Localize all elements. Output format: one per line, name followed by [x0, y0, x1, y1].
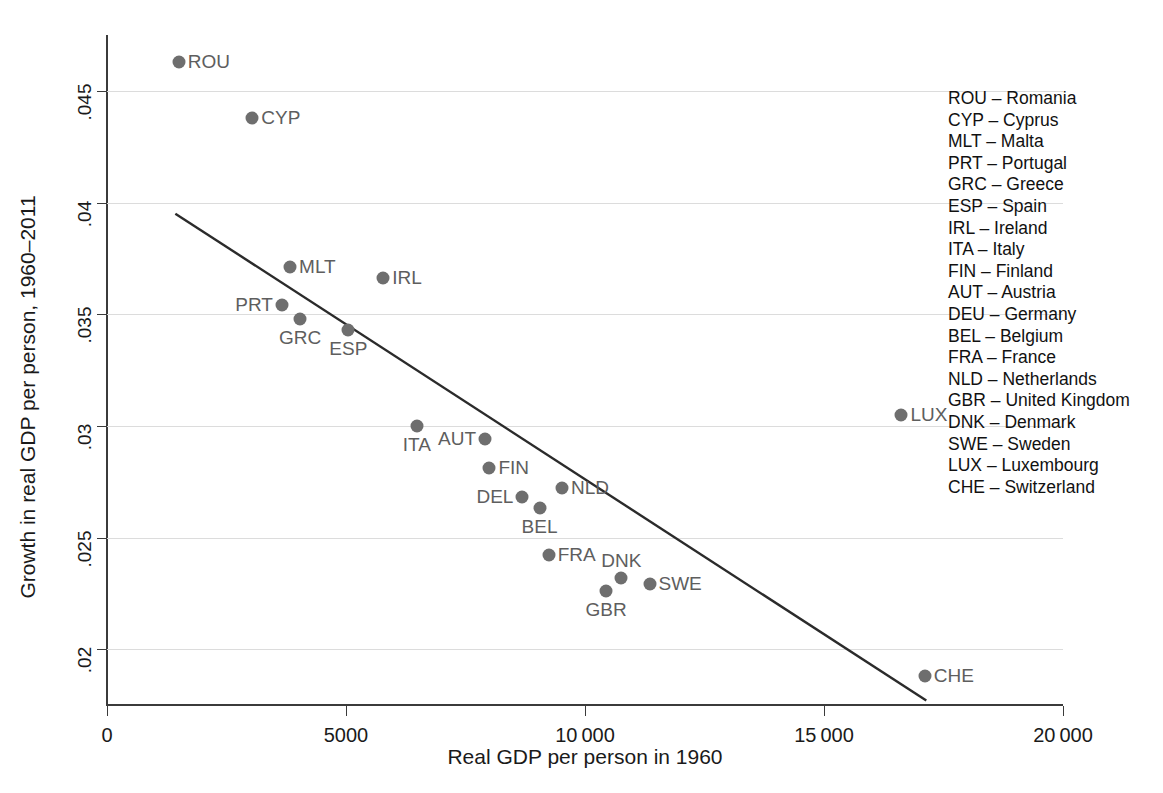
y-tick-label: .025 [74, 530, 96, 567]
legend-item-aut: AUT – Austria [948, 282, 1163, 304]
x-tick-label: 20 000 [1033, 724, 1093, 747]
data-point-prt[interactable] [275, 299, 288, 312]
y-tick-label: .045 [74, 83, 96, 120]
data-point-che[interactable] [918, 669, 931, 682]
data-point-label-mlt: MLT [299, 256, 336, 278]
data-point-esp[interactable] [342, 323, 355, 336]
legend-item-nld: NLD – Netherlands [948, 369, 1163, 391]
data-point-ita[interactable] [410, 419, 423, 432]
data-point-fin[interactable] [483, 462, 496, 475]
data-point-label-aut: AUT [438, 428, 476, 450]
x-tick-mark [346, 706, 347, 716]
legend-item-grc: GRC – Greece [948, 174, 1163, 196]
data-point-label-fin: FIN [498, 457, 529, 479]
data-point-label-bel: BEL [522, 516, 558, 538]
data-point-label-che: CHE [934, 665, 974, 687]
data-point-label-fra: FRA [558, 544, 596, 566]
legend-item-swe: SWE – Sweden [948, 434, 1163, 456]
legend-item-ita: ITA – Italy [948, 239, 1163, 261]
legend-item-esp: ESP – Spain [948, 196, 1163, 218]
legend-item-fin: FIN – Finland [948, 261, 1163, 283]
data-point-irl[interactable] [377, 272, 390, 285]
y-tick-mark [97, 203, 107, 204]
data-point-label-swe: SWE [659, 573, 702, 595]
y-tick-label: .035 [74, 307, 96, 344]
data-point-label-lux: LUX [910, 404, 947, 426]
y-tick-label: .04 [74, 200, 96, 226]
data-point-label-esp: ESP [329, 338, 367, 360]
data-point-lux[interactable] [895, 408, 908, 421]
x-tick-mark [585, 706, 586, 716]
legend-item-fra: FRA – France [948, 347, 1163, 369]
legend-item-irl: IRL – Ireland [948, 218, 1163, 240]
y-tick-label: .02 [74, 647, 96, 673]
data-point-gbr[interactable] [600, 585, 613, 598]
legend-item-prt: PRT – Portugal [948, 153, 1163, 175]
data-point-aut[interactable] [479, 433, 492, 446]
x-tick-label: 15 000 [794, 724, 854, 747]
data-point-label-dnk: DNK [601, 550, 641, 572]
data-point-swe[interactable] [643, 578, 656, 591]
data-point-dnk[interactable] [615, 571, 628, 584]
legend-item-deu: DEU – Germany [948, 304, 1163, 326]
y-tick-mark [97, 426, 107, 427]
data-point-label-gbr: GBR [585, 599, 626, 621]
data-point-label-nld: NLD [571, 477, 609, 499]
data-point-label-irl: IRL [392, 267, 422, 289]
x-tick-label: 5000 [324, 724, 369, 747]
x-axis-title: Real GDP per person in 1960 [107, 745, 1063, 769]
y-tick-label: .03 [74, 424, 96, 450]
legend-item-cyp: CYP – Cyprus [948, 110, 1163, 132]
x-tick-mark [1063, 706, 1064, 716]
legend-item-mlt: MLT – Malta [948, 131, 1163, 153]
data-point-label-rou: ROU [188, 51, 230, 73]
data-point-fra[interactable] [542, 549, 555, 562]
x-tick-label: 0 [101, 724, 112, 747]
y-tick-mark [97, 314, 107, 315]
data-point-grc[interactable] [294, 312, 307, 325]
y-axis-title: Growth in real GDP per person, 1960–2011 [14, 0, 42, 793]
plot-area: .02.025.03.035.04.045 0500010 00015 0002… [107, 35, 1063, 705]
data-point-del[interactable] [516, 491, 529, 504]
data-point-label-prt: PRT [235, 294, 273, 316]
x-tick-mark [824, 706, 825, 716]
x-tick-mark [107, 706, 108, 716]
y-tick-mark [97, 649, 107, 650]
x-tick-label: 10 000 [555, 724, 615, 747]
data-point-label-cyp: CYP [261, 107, 300, 129]
data-point-label-grc: GRC [279, 327, 321, 349]
country-code-legend: ROU – RomaniaCYP – CyprusMLT – MaltaPRT … [948, 88, 1163, 498]
data-point-label-ita: ITA [403, 434, 431, 456]
y-tick-mark [97, 538, 107, 539]
legend-item-che: CHE – Switzerland [948, 477, 1163, 499]
legend-item-dnk: DNK – Denmark [948, 412, 1163, 434]
y-tick-mark [97, 91, 107, 92]
data-point-label-del: DEL [476, 486, 513, 508]
data-point-rou[interactable] [172, 55, 185, 68]
data-point-mlt[interactable] [284, 261, 297, 274]
legend-item-gbr: GBR – United Kingdom [948, 390, 1163, 412]
data-points: ROUCYPMLTIRLPRTGRCESPITAAUTFINNLDDELBELF… [107, 35, 1063, 705]
legend-item-lux: LUX – Luxembourg [948, 455, 1163, 477]
data-point-bel[interactable] [533, 502, 546, 515]
data-point-cyp[interactable] [246, 111, 259, 124]
legend-item-bel: BEL – Belgium [948, 326, 1163, 348]
y-axis-title-text: Growth in real GDP per person, 1960–2011 [16, 195, 40, 598]
data-point-nld[interactable] [556, 482, 569, 495]
scatter-chart-figure: Growth in real GDP per person, 1960–2011… [0, 0, 1163, 793]
legend-item-rou: ROU – Romania [948, 88, 1163, 110]
